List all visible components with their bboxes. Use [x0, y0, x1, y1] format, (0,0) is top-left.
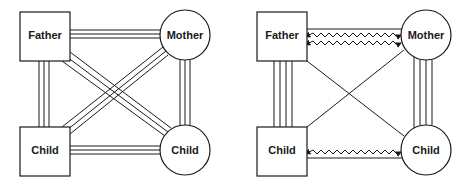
label-child-circle: Child [171, 144, 199, 156]
family-relationship-diagrams: Father Mother Child Child [0, 0, 468, 188]
label-mother: Mother [408, 29, 445, 41]
edge-mother-childcircle-triple [180, 60, 190, 125]
zigzag-arrow-3 [309, 150, 401, 154]
edge-father-childsquare-triple [39, 61, 49, 127]
edge-father-childcircle-single [307, 61, 404, 136]
label-father: Father [265, 29, 299, 41]
zigzag-arrow-1 [309, 33, 401, 37]
label-mother: Mother [167, 29, 204, 41]
edge-mother-childsquare-single [307, 50, 404, 127]
label-child-circle: Child [412, 144, 440, 156]
edge-father-mother-triple [70, 30, 161, 38]
edge-mother-childsquare-triple [62, 47, 168, 134]
label-child-square: Child [31, 144, 59, 156]
label-father: Father [28, 29, 62, 41]
edge-child-child-conflict [307, 150, 402, 158]
edge-father-childcircle-triple [62, 52, 171, 136]
edge-mother-childcircle-quad [414, 57, 432, 128]
edge-child-child-triple [70, 146, 161, 154]
edge-father-mother-conflict [307, 29, 402, 45]
zigzag-arrow-2 [309, 41, 401, 45]
label-child-square: Child [268, 144, 296, 156]
edge-father-childsquare-quad [274, 61, 292, 127]
